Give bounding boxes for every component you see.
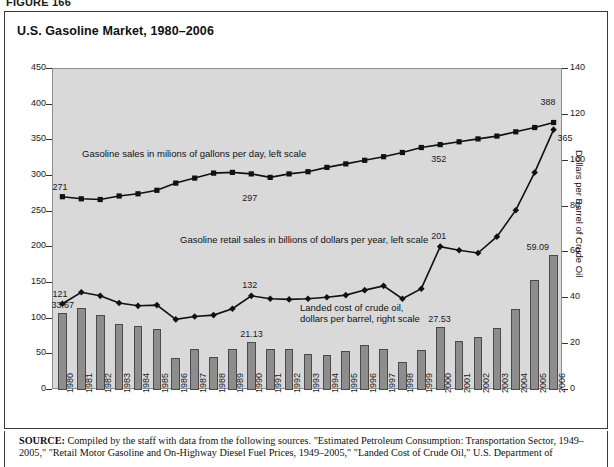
marker-1-1992 [286, 296, 293, 303]
y-tick-right-40: 40 [570, 291, 596, 301]
data-label-365: 365 [558, 133, 573, 143]
x-tick-1985: 1985 [160, 373, 170, 393]
marker-0-1990 [249, 171, 254, 176]
data-label-352: 352 [431, 154, 446, 164]
marker-0-2000 [438, 142, 443, 147]
x-tick-1995: 1995 [349, 373, 359, 393]
marker-0-1986 [173, 181, 178, 186]
x-tick-1998: 1998 [405, 373, 415, 393]
y-tick-left-450: 450 [16, 62, 46, 72]
marker-0-1988 [211, 171, 216, 176]
marker-0-2001 [457, 139, 462, 144]
data-label-59-09: 59.09 [527, 242, 550, 252]
marker-0-1998 [400, 150, 405, 155]
x-tick-1983: 1983 [122, 373, 132, 393]
marker-0-1997 [381, 154, 386, 159]
y-tick-right-140: 140 [570, 62, 596, 72]
x-tick-1986: 1986 [179, 373, 189, 393]
x-tick-2000: 2000 [443, 373, 453, 393]
data-label-27-53: 27.53 [428, 314, 451, 324]
x-tick-1999: 1999 [424, 373, 434, 393]
data-label-132: 132 [242, 280, 257, 290]
y-tick-left-0: 0 [16, 383, 46, 393]
marker-0-1991 [268, 175, 273, 180]
right-axis-title: Dollars per Barrel of Crude Oil [574, 150, 585, 277]
x-tick-1996: 1996 [368, 373, 378, 393]
y-tick-left-400: 400 [16, 98, 46, 108]
marker-0-1987 [192, 176, 197, 181]
figure-number: FIGURE 166 [6, 0, 71, 8]
y-tickmark-left [46, 389, 52, 390]
data-label-121: 121 [52, 289, 67, 299]
marker-0-1989 [230, 170, 235, 175]
marker-0-1984 [135, 191, 140, 196]
x-tick-1997: 1997 [387, 373, 397, 393]
bar-2006 [549, 255, 558, 390]
marker-0-2004 [513, 129, 518, 134]
data-label-201: 201 [431, 231, 446, 241]
x-tick-1982: 1982 [103, 373, 113, 393]
marker-0-1994 [324, 165, 329, 170]
marker-1-1994 [324, 294, 331, 301]
marker-0-2006 [551, 120, 556, 125]
marker-1-1991 [267, 295, 274, 302]
marker-0-1993 [305, 169, 310, 174]
x-tick-1994: 1994 [330, 373, 340, 393]
x-tick-2002: 2002 [481, 373, 491, 393]
x-tick-2006: 2006 [557, 373, 567, 393]
marker-0-1995 [343, 161, 348, 166]
y-tick-right-120: 120 [570, 108, 596, 118]
y-tick-left-150: 150 [16, 276, 46, 286]
marker-0-1985 [154, 188, 159, 193]
x-tick-1992: 1992 [292, 373, 302, 393]
marker-1-1993 [305, 295, 312, 302]
marker-1-1999 [418, 285, 425, 292]
y-tick-right-20: 20 [570, 337, 596, 347]
marker-1-2000 [437, 243, 444, 250]
y-tick-left-300: 300 [16, 169, 46, 179]
data-label-271: 271 [52, 182, 67, 192]
marker-0-2005 [532, 125, 537, 130]
marker-0-2003 [494, 134, 499, 139]
x-tick-1989: 1989 [235, 373, 245, 393]
marker-0-1992 [287, 171, 292, 176]
x-tick-2003: 2003 [500, 373, 510, 393]
x-tick-1987: 1987 [198, 373, 208, 393]
marker-1-1995 [342, 292, 349, 299]
x-tick-1991: 1991 [273, 373, 283, 393]
line-series-0 [62, 123, 553, 200]
x-tick-1990: 1990 [254, 373, 264, 393]
data-label-388: 388 [541, 97, 556, 107]
y-tick-left-350: 350 [16, 133, 46, 143]
source-label: SOURCE: [19, 435, 65, 446]
plot-area [52, 68, 562, 389]
x-tick-2001: 2001 [462, 373, 472, 393]
x-tick-1988: 1988 [217, 373, 227, 393]
marker-1-2006 [550, 126, 557, 133]
marker-1-1988 [210, 312, 217, 319]
x-tick-1984: 1984 [141, 373, 151, 393]
marker-1-1984 [135, 303, 142, 310]
data-label-297: 297 [242, 193, 257, 203]
x-tick-1993: 1993 [311, 373, 321, 393]
marker-1-1982 [97, 293, 104, 300]
series-annotation-3: dollars per barrel, right scale [300, 313, 420, 325]
x-tick-1980: 1980 [65, 373, 75, 393]
marker-0-2002 [475, 136, 480, 141]
marker-0-1999 [419, 145, 424, 150]
x-tick-2004: 2004 [519, 373, 529, 393]
data-label-21-13: 21.13 [240, 329, 263, 339]
source-text: Compiled by the staff with data from the… [19, 435, 584, 458]
series-overlay [53, 69, 563, 390]
figure-root: FIGURE 166 U.S. Gasoline Market, 1980–20… [0, 0, 614, 467]
marker-0-1980 [60, 194, 65, 199]
marker-0-1982 [98, 197, 103, 202]
y-tick-left-250: 250 [16, 205, 46, 215]
series-annotation-1: Gasoline retail sales in billions of dol… [180, 234, 428, 246]
data-label-33-67: 33.67 [51, 300, 74, 310]
y-tick-left-200: 200 [16, 240, 46, 250]
series-annotation-0: Gasoline sales in milions of gallons per… [82, 148, 306, 160]
marker-1-2001 [456, 247, 463, 254]
marker-0-1983 [117, 193, 122, 198]
y-tick-left-100: 100 [16, 312, 46, 322]
